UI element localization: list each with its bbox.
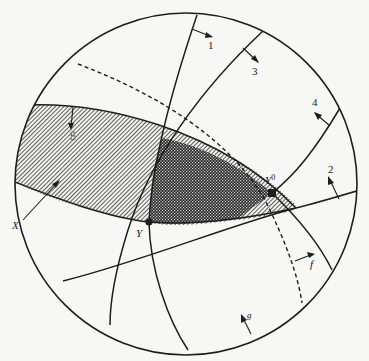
label-3: 3 <box>252 65 258 77</box>
label-4: 4 <box>312 96 318 108</box>
label-2: 2 <box>328 163 334 175</box>
diagram-canvas: 1 3 4 2 5 f g X Y Y0 <box>0 0 369 361</box>
label-y0: Y0 <box>265 173 275 186</box>
label-x: X <box>11 219 20 231</box>
point-y <box>145 218 152 225</box>
label-5: 5 <box>70 129 76 143</box>
label-f: f <box>310 258 315 270</box>
arrow-4-head <box>314 112 322 120</box>
arrow-2-head <box>328 176 334 185</box>
point-y0 <box>268 189 276 197</box>
label-g: g <box>247 310 252 320</box>
label-y: Y <box>136 227 144 239</box>
label-1: 1 <box>208 39 214 51</box>
label-y0-sup: 0 <box>271 173 275 182</box>
arrow-1-head <box>205 32 213 38</box>
